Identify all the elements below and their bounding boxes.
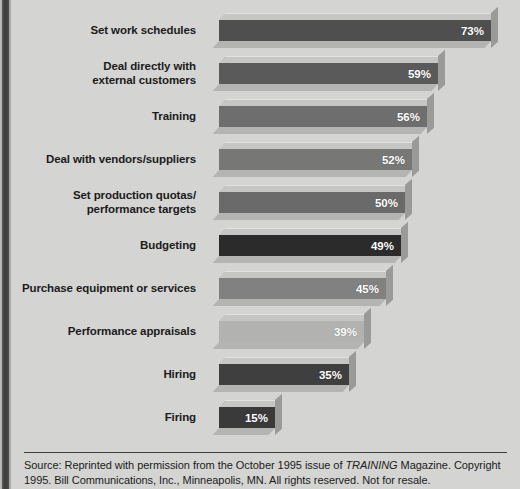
bar: 39% [212,314,364,349]
bar-right-face [412,136,419,177]
source-note-magazine: TRAINING [345,459,397,471]
bar-front-face: 45% [219,278,386,299]
bar-value-label: 35% [319,369,349,381]
bar-category-label: Firing [11,396,207,439]
bar-right-face [401,222,408,263]
bar: 56% [212,99,427,134]
bar-bottom-bevel [213,170,412,177]
bar-category-label: Performance appraisals [11,310,207,353]
source-note: Source: Reprinted with permission from t… [24,458,516,487]
bar: 49% [212,228,401,263]
chart-row: Set work schedules73% [11,9,520,52]
bar-category-label-line: Performance appraisals [68,325,196,339]
chart-row: Set production quotas/performance target… [11,181,520,224]
bar-value-label: 50% [375,197,405,209]
bar-front-face: 50% [219,192,405,213]
bar-top-bevel [219,400,281,407]
bar-top-bevel [219,357,355,364]
bar-category-label: Hiring [11,353,207,396]
bar-top-bevel [219,99,433,106]
bar-front-face: 15% [219,407,275,428]
bar-category-label-line: Training [152,110,196,124]
bar-value-label: 56% [397,111,427,123]
bar-category-label: Deal directly withexternal customers [11,52,207,95]
bar-category-label-line: Deal directly with [103,60,196,74]
chart-row: Budgeting49% [11,224,520,267]
bar-top-bevel [219,56,444,63]
bar-category-label-line: performance targets [87,203,196,217]
bar-bottom-bevel [213,256,401,263]
bar: 59% [212,56,438,91]
bar-value-label: 73% [461,25,491,37]
bar-top-bevel [219,228,407,235]
bar: 50% [212,185,405,220]
bar-category-label: Set work schedules [11,9,207,52]
bar-category-label-line: Firing [165,411,196,425]
bar-value-label: 15% [245,412,275,424]
bar-right-face [349,351,356,392]
bar-front-face: 52% [219,149,412,170]
bar-right-face [491,7,498,48]
bar-value-label: 49% [371,240,401,252]
bar-top-bevel [219,13,497,20]
bar-right-face [427,93,434,134]
bar: 35% [212,357,349,392]
bar-bottom-bevel [213,41,491,48]
bar-front-face: 56% [219,106,427,127]
bar-bottom-bevel [213,385,349,392]
bar-category-label-line: Hiring [163,368,196,382]
bar: 15% [212,400,275,435]
chart-page: Set work schedules73%Deal directly withe… [0,0,520,489]
bar-bottom-bevel [213,213,405,220]
page-gutter-shadow [2,0,9,489]
page-surface: Set work schedules73%Deal directly withe… [11,0,520,489]
footer-divider-rule [24,452,507,453]
bar-right-face [438,50,445,91]
bar-category-label-line: Deal with vendors/suppliers [46,153,196,167]
chart-row: Firing15% [11,396,520,439]
bar-category-label: Training [11,95,207,138]
bar-right-face [405,179,412,220]
bar-top-bevel [219,271,392,278]
bar-front-face: 59% [219,63,438,84]
bar-right-face [275,394,282,435]
bar-bottom-bevel [213,299,386,306]
bar-bottom-bevel [213,127,427,134]
bar-bottom-bevel [213,84,438,91]
chart-row: Deal with vendors/suppliers52% [11,138,520,181]
horizontal-bar-chart: Set work schedules73%Deal directly withe… [11,0,520,440]
bar-value-label: 52% [382,154,412,166]
bar: 52% [212,142,412,177]
source-note-prefix: Source: Reprinted with permission from t… [24,459,345,471]
bar-right-face [364,308,371,349]
bar-value-label: 39% [334,326,364,338]
chart-row: Purchase equipment or services45% [11,267,520,310]
bar-category-label-line: Set production quotas/ [73,189,196,203]
bar-category-label: Budgeting [11,224,207,267]
bar-value-label: 59% [408,68,438,80]
chart-row: Training56% [11,95,520,138]
bar-value-label: 45% [356,283,386,295]
bar-top-bevel [219,142,418,149]
chart-row: Performance appraisals39% [11,310,520,353]
bar-front-face: 35% [219,364,349,385]
bar-front-face: 39% [219,321,364,342]
bar-category-label-line: Purchase equipment or services [22,282,196,296]
chart-row: Hiring35% [11,353,520,396]
chart-row: Deal directly withexternal customers59% [11,52,520,95]
bar-bottom-bevel [213,428,275,435]
bar-top-bevel [219,185,411,192]
bar-category-label-line: external customers [92,74,196,88]
bar-right-face [386,265,393,306]
bar-category-label-line: Budgeting [140,239,196,253]
bar: 45% [212,271,386,306]
bar: 73% [212,13,491,48]
bar-front-face: 49% [219,235,401,256]
bar-category-label-line: Set work schedules [90,24,196,38]
bar-category-label: Purchase equipment or services [11,267,207,310]
bar-front-face: 73% [219,20,491,41]
bar-category-label: Deal with vendors/suppliers [11,138,207,181]
bar-category-label: Set production quotas/performance target… [11,181,207,224]
bar-top-bevel [219,314,370,321]
bar-bottom-bevel [213,342,364,349]
